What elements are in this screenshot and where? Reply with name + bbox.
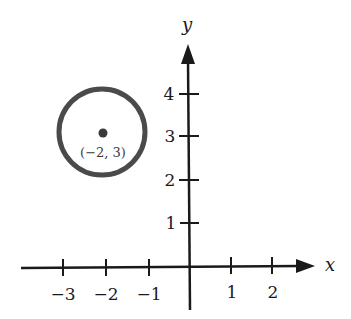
x-tick-label: −3 — [50, 284, 75, 304]
coordinate-plane: −3 −2 −1 1 2 x 4 3 2 1 y (−2, 3) — [0, 0, 351, 319]
x-tick-label: 2 — [268, 282, 279, 302]
x-tick-label: −1 — [136, 284, 161, 304]
center-point-label: (−2, 3) — [80, 145, 126, 160]
y-tick-label: 3 — [165, 126, 176, 146]
x-axis-label: x — [325, 254, 335, 275]
y-tick-label: 4 — [164, 84, 175, 104]
center-point — [99, 129, 108, 138]
y-axis-arrow-icon — [181, 44, 195, 64]
y-tick-label: 2 — [165, 170, 176, 190]
x-tick-label: −2 — [93, 284, 118, 304]
y-axis-label: y — [181, 14, 193, 35]
x-axis-arrow-icon — [296, 259, 315, 273]
circle-shape: (−2, 3) — [59, 89, 145, 175]
y-tick-label: 1 — [166, 213, 177, 233]
x-tick-label: 1 — [227, 282, 238, 302]
x-axis: −3 −2 −1 1 2 x — [21, 254, 335, 304]
